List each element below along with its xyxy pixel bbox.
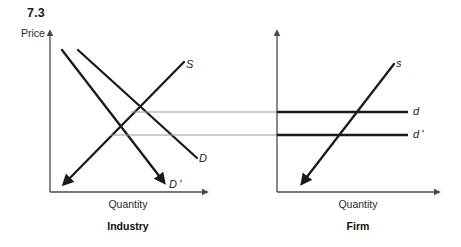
industry-supply-curve	[65, 62, 184, 183]
firm-panel-caption: Firm	[318, 220, 398, 232]
industry-demand-curve-label: D	[199, 152, 207, 164]
firm-supply-curve	[303, 64, 394, 182]
figure-container: 7.3 Price Quantity Industry Quantity Fir…	[0, 0, 461, 247]
industry-demand-shifted-curve	[62, 50, 163, 181]
price-connectors	[110, 112, 277, 135]
industry-quantity-axis-label: Quantity	[88, 198, 168, 210]
industry-demand-shifted-curve-label: D '	[169, 178, 181, 190]
industry-panel-caption: Industry	[88, 220, 168, 232]
industry-supply-curve-label: S	[186, 58, 193, 70]
firm-demand-shifted-curve-label: d '	[413, 128, 423, 140]
firm-quantity-axis-label: Quantity	[318, 198, 398, 210]
firm-demand-curve-label: d	[413, 105, 419, 117]
figure-number: 7.3	[27, 6, 45, 20]
firm-supply-curve-label: s	[396, 57, 402, 69]
price-axis-label: Price	[21, 27, 45, 39]
